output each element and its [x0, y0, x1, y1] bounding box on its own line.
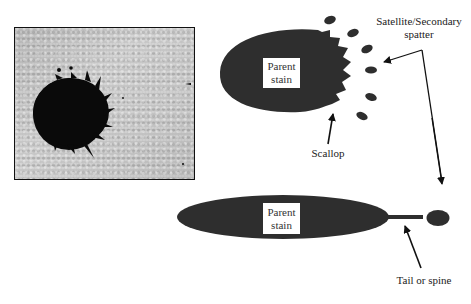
satellite-label: Satellite/Secondary spatter — [370, 15, 468, 41]
top-parent-line1: Parent — [263, 60, 300, 73]
bottom-parent-line2: stain — [263, 219, 300, 232]
bottom-parent-stain-label: Parent stain — [263, 203, 300, 234]
satellite-arrow — [384, 50, 422, 62]
tail-arrow — [405, 226, 421, 268]
satellite-label-line1: Satellite/Secondary — [370, 15, 468, 28]
top-parent-stain-label: Parent stain — [263, 58, 300, 88]
top-parent-line2: stain — [263, 73, 300, 86]
diagram-canvas — [0, 0, 471, 304]
tail-pointer-arrow — [432, 118, 442, 184]
tail-label: Tail or spine — [392, 274, 456, 287]
scallop-label: Scallop — [306, 147, 350, 160]
tail-end-droplet — [427, 210, 450, 226]
scallop-arrow — [328, 114, 333, 144]
bottom-parent-line1: Parent — [263, 206, 300, 219]
satellite-label-line2: spatter — [370, 28, 468, 41]
tail-spine — [386, 215, 423, 219]
